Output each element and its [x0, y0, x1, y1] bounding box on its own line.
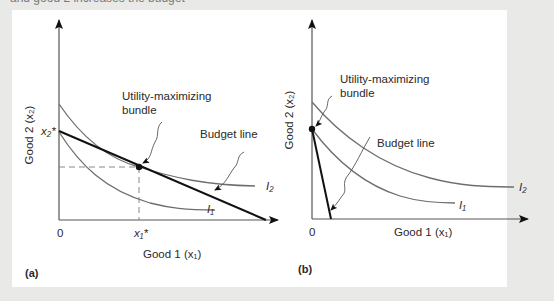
utility-maximizing-point [136, 164, 142, 170]
panel-b-tag: (b) [298, 263, 312, 275]
x1-star-label: x₁* [133, 227, 148, 239]
budget-line [59, 131, 266, 220]
budget-line-annotation: Budget line [200, 128, 258, 140]
bundle-annotation-line1: Utility-maximizing [340, 73, 429, 85]
origin-label: 0 [57, 227, 63, 239]
curve-i1-label: I₁ [459, 199, 466, 211]
panel-b: Good 2 (x₂) 0 Good 1 (x₁) Utility-maximi… [283, 20, 528, 275]
panel-a-tag: (a) [25, 267, 39, 279]
utility-maximizing-point [309, 126, 315, 132]
budget-line [312, 129, 331, 219]
bundle-leader [143, 122, 162, 163]
panel-a: Good 2 (x₂) x₂* x₁* 0 Good 1 (x₁) Utilit… [23, 20, 278, 279]
curve-i2-label: I₂ [266, 180, 274, 192]
curve-i1-label: I₁ [207, 203, 214, 215]
y-axis-label: Good 2 (x₂) [283, 90, 295, 149]
indifference-curve-i1 [59, 132, 215, 210]
y-axis-label: Good 2 (x₂) [23, 105, 35, 164]
x-axis-label: Good 1 (x₁) [394, 226, 452, 238]
consumer-choice-diagram: Good 2 (x₂) x₂* x₁* 0 Good 1 (x₁) Utilit… [0, 0, 554, 301]
origin-label: 0 [309, 226, 315, 238]
bundle-annotation-line1: Utility-maximizing [122, 90, 211, 102]
x-axis-label: Good 1 (x₁) [143, 248, 201, 260]
curve-i2-label: I₂ [519, 181, 527, 193]
bundle-annotation-line2: bundle [122, 104, 157, 116]
budget-leader [331, 137, 370, 210]
x2-star-label: x₂* [40, 125, 56, 137]
bundle-annotation-line2: bundle [340, 87, 375, 99]
budget-line-annotation: Budget line [377, 137, 435, 149]
